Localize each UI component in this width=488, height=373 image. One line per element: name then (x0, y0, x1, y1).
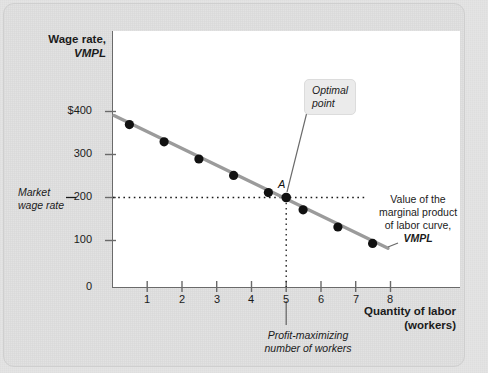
vmpl-curve (114, 116, 388, 249)
x-tick-label-7: 7 (346, 293, 366, 305)
figure-root: $400 300 200 100 0 1 2 3 4 5 6 7 8 Wage … (0, 0, 488, 373)
data-point-6 (299, 205, 308, 214)
data-point-optimal (281, 193, 291, 203)
data-point-2 (160, 137, 169, 146)
callout-line2: point (312, 97, 348, 110)
data-point-4 (229, 171, 238, 180)
x-tick-label-3: 3 (207, 293, 227, 305)
data-point-3 (194, 154, 203, 163)
x-tick-label-6: 6 (311, 293, 331, 305)
profit-max-line2: number of workers (243, 342, 373, 355)
data-point-7 (333, 222, 342, 231)
y-axis-title-line1: Wage rate, (48, 33, 106, 45)
curve-label-line4: VMPL (372, 232, 464, 245)
profit-maximizing-caption: Profit-maximizing number of workers (243, 329, 373, 354)
x-axis-title-line1: Quantity of labor (330, 305, 456, 319)
axes (113, 31, 461, 288)
profit-max-line1: Profit-maximizing (243, 329, 373, 342)
x-tick-label-2: 2 (172, 293, 192, 305)
x-tick-label-5: 5 (276, 293, 296, 305)
y-axis-title: Wage rate, VMPL (28, 33, 106, 60)
callout-line1: Optimal (312, 84, 348, 97)
market-wage-rate-line1: Market (18, 186, 80, 199)
data-point-1 (125, 120, 134, 129)
curve-label-line2: marginal product (372, 206, 464, 219)
x-axis-ticks (147, 281, 390, 292)
curve-label-line1: Value of the (372, 193, 464, 206)
y-axis-ticks (105, 112, 116, 241)
y-tick-label-100: 100 (46, 233, 92, 245)
y-axis-title-line2: VMPL (28, 47, 106, 61)
y-tick-label-0: 0 (46, 280, 92, 292)
market-wage-rate-label: Market wage rate (18, 186, 80, 211)
y-tick-label-400: $400 (46, 104, 92, 116)
optimal-point-callout: Optimal point (304, 79, 356, 115)
data-point-5 (264, 188, 273, 197)
y-tick-label-300: 300 (46, 147, 92, 159)
callout-leader-line (287, 112, 307, 192)
curve-label: Value of the marginal product of labor c… (372, 193, 464, 246)
x-tick-label-1: 1 (137, 293, 157, 305)
x-tick-label-4: 4 (241, 293, 261, 305)
curve-label-line3: of labor curve, (372, 219, 464, 232)
market-wage-rate-line2: wage rate (18, 199, 80, 212)
point-a-label: A (278, 178, 285, 190)
x-tick-label-8: 8 (380, 293, 400, 305)
vmpl-data-markers (125, 120, 377, 248)
